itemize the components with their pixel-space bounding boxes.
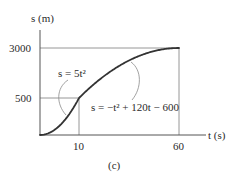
x-axis-label: t (s) (208, 129, 226, 142)
x-tick-60: 60 (173, 140, 185, 152)
position-curve (40, 48, 179, 135)
eq1-leader-arc (59, 80, 68, 115)
eq2-leader-arc (131, 62, 139, 100)
x-tick-10: 10 (73, 140, 85, 152)
y-tick-500: 500 (15, 92, 32, 104)
y-tick-3000: 3000 (9, 42, 32, 54)
y-axis-label: s (m) (31, 12, 54, 25)
position-time-chart: s (m) t (s) 3000 500 10 60 s = 5t² s = −… (0, 0, 229, 182)
equation-1-label: s = 5t² (58, 67, 87, 79)
equation-2-label: s = −t² + 120t − 600 (91, 101, 180, 113)
figure-caption: (c) (108, 159, 121, 172)
